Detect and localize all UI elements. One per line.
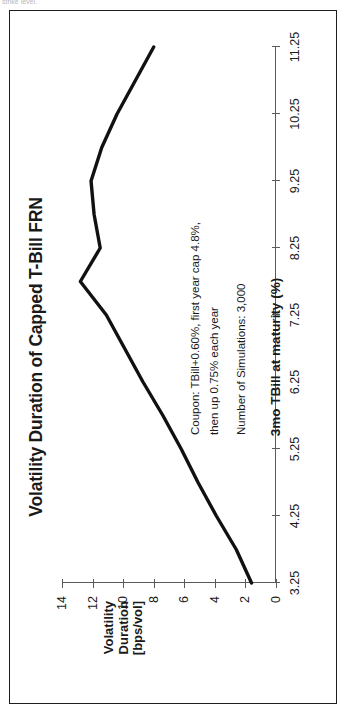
y-tick-label: 8 [147,596,161,603]
y-axis-title-line-2: Duration [117,601,132,693]
figure-frame: Volatility Duration of Capped T-Bill FRN… [9,10,337,704]
y-axis-title: Volatility Duration [bps/vol] [102,601,146,693]
x-tick-label: 11.25 [288,32,302,62]
y-tick-label: 6 [177,596,191,603]
y-tick-label: 2 [238,596,252,603]
x-tick-label: 6.25 [288,370,302,394]
annotation-spacer [223,222,232,435]
annotation-line-2: then up 0.75% each year [205,222,224,435]
x-tick-label: 3.25 [288,571,302,595]
chart-title: Volatility Duration of Capped T-Bill FRN [26,11,47,703]
scan-artifact-text: strike level. [2,0,62,8]
x-tick-label: 7.25 [288,303,302,327]
x-axis-title: 3mo TBill at maturity (%) [268,11,283,703]
y-tick-label: 12 [86,596,100,610]
y-tick-label: 4 [208,596,222,603]
chart-annotation: Coupon: TBill+0.60%, first year cap 4.8%… [186,222,251,435]
y-axis-title-line-1: Volatility [102,601,117,693]
chart-canvas: Volatility Duration of Capped T-Bill FRN… [10,11,336,703]
x-tick-label: 9.25 [288,169,302,193]
annotation-line-3: Number of Simulations: 3,000 [232,222,251,435]
y-axis-title-line-3: [bps/vol] [131,601,146,693]
x-tick-label: 8.25 [288,236,302,260]
x-tick-label: 5.25 [288,437,302,461]
annotation-line-1: Coupon: TBill+0.60%, first year cap 4.8%… [186,222,205,435]
y-tick-label: 14 [55,596,69,610]
rotated-chart-wrapper: Volatility Duration of Capped T-Bill FRN… [10,11,336,703]
x-tick-label: 10.25 [288,98,302,129]
x-tick-label: 4.25 [288,504,302,528]
